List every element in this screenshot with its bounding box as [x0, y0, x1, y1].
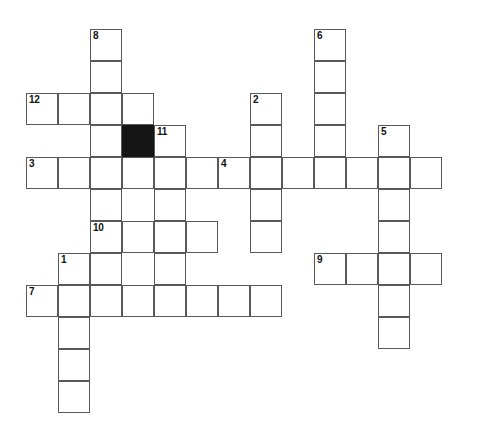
letter-cell[interactable] [250, 189, 282, 221]
letter-cell[interactable] [250, 221, 282, 253]
letter-cell[interactable]: 9 [314, 253, 346, 285]
letter-cell[interactable]: 2 [250, 93, 282, 125]
letter-cell[interactable] [58, 381, 90, 413]
letter-cell[interactable]: 7 [26, 285, 58, 317]
letter-cell[interactable]: 5 [378, 125, 410, 157]
clue-number: 6 [317, 30, 322, 42]
letter-cell[interactable]: 1 [58, 253, 90, 285]
letter-cell[interactable] [154, 221, 186, 253]
letter-cell[interactable] [378, 221, 410, 253]
letter-cell[interactable] [90, 189, 122, 221]
clue-number: 2 [253, 94, 258, 106]
letter-cell[interactable]: 6 [314, 29, 346, 61]
letter-cell[interactable] [218, 285, 250, 317]
letter-cell[interactable]: 10 [90, 221, 122, 253]
letter-cell[interactable] [58, 349, 90, 381]
letter-cell[interactable] [90, 157, 122, 189]
letter-cell[interactable] [314, 157, 346, 189]
letter-cell[interactable] [186, 221, 218, 253]
letter-cell[interactable] [90, 93, 122, 125]
letter-cell[interactable] [186, 157, 218, 189]
letter-cell[interactable] [154, 189, 186, 221]
letter-cell[interactable] [58, 285, 90, 317]
letter-cell[interactable] [250, 285, 282, 317]
clue-number: 11 [157, 126, 167, 138]
letter-cell[interactable] [122, 285, 154, 317]
letter-cell[interactable] [154, 285, 186, 317]
letter-cell[interactable] [378, 189, 410, 221]
letter-cell[interactable] [378, 157, 410, 189]
block-cell [122, 125, 154, 157]
letter-cell[interactable] [314, 125, 346, 157]
letter-cell[interactable] [378, 317, 410, 349]
letter-cell[interactable] [90, 125, 122, 157]
letter-cell[interactable]: 8 [90, 29, 122, 61]
letter-cell[interactable] [314, 61, 346, 93]
letter-cell[interactable] [154, 253, 186, 285]
letter-cell[interactable] [186, 285, 218, 317]
letter-cell[interactable] [410, 157, 442, 189]
letter-cell[interactable] [378, 253, 410, 285]
clue-number: 12 [29, 94, 40, 106]
letter-cell[interactable] [122, 221, 154, 253]
letter-cell[interactable] [90, 285, 122, 317]
clue-number: 3 [29, 158, 34, 170]
letter-cell[interactable]: 11 [154, 125, 186, 157]
letter-cell[interactable] [346, 253, 378, 285]
letter-cell[interactable] [122, 93, 154, 125]
letter-cell[interactable] [250, 125, 282, 157]
letter-cell[interactable] [282, 157, 314, 189]
clue-number: 5 [381, 126, 386, 138]
letter-cell[interactable]: 3 [26, 157, 58, 189]
clue-number: 7 [29, 286, 34, 298]
letter-cell[interactable] [378, 285, 410, 317]
clue-number: 9 [317, 254, 322, 266]
clue-number: 8 [93, 30, 98, 42]
letter-cell[interactable]: 12 [26, 93, 58, 125]
letter-cell[interactable] [346, 157, 378, 189]
letter-cell[interactable] [90, 253, 122, 285]
letter-cell[interactable] [250, 157, 282, 189]
letter-cell[interactable] [314, 93, 346, 125]
letter-cell[interactable] [154, 157, 186, 189]
letter-cell[interactable] [410, 253, 442, 285]
letter-cell[interactable] [58, 317, 90, 349]
letter-cell[interactable] [122, 157, 154, 189]
clue-number: 1 [61, 254, 66, 266]
letter-cell[interactable] [58, 93, 90, 125]
letter-cell[interactable]: 4 [218, 157, 250, 189]
letter-cell[interactable] [58, 157, 90, 189]
clue-number: 10 [93, 222, 104, 234]
clue-number: 4 [221, 158, 226, 170]
crossword-grid: 812113101762549 [0, 0, 490, 438]
letter-cell[interactable] [90, 61, 122, 93]
